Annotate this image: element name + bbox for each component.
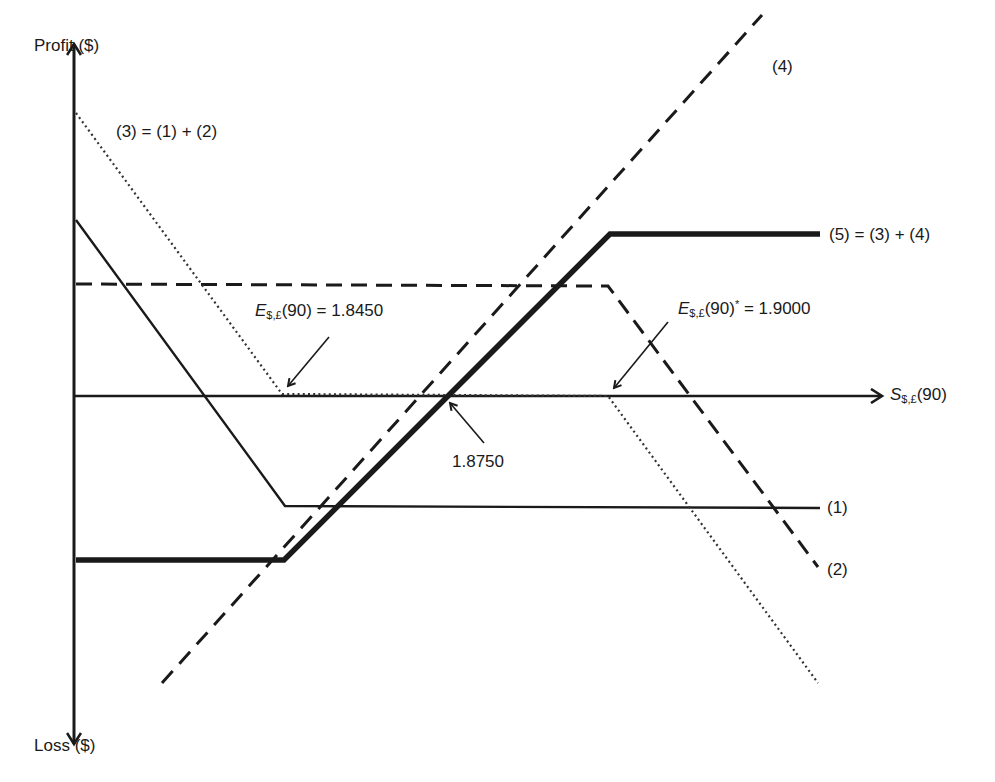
lower-strike-arrow bbox=[288, 337, 329, 386]
x-axis-label-symbol: S bbox=[890, 385, 901, 404]
x-axis-label-rest: (90) bbox=[917, 385, 947, 404]
lower-strike-sub: $,£ bbox=[266, 309, 281, 321]
upper-strike-sub: $,£ bbox=[689, 307, 704, 319]
upper-strike-symbol: E bbox=[678, 299, 689, 318]
series-1-label: (1) bbox=[827, 498, 848, 518]
upper-strike-label: E$,£(90)* = 1.9000 bbox=[678, 298, 811, 319]
x-axis-label: S$,£(90) bbox=[890, 385, 947, 405]
lower-strike-value: (90) = 1.8450 bbox=[282, 301, 384, 320]
y-axis-top-label: Profit ($) bbox=[34, 36, 99, 56]
series-4-label: (4) bbox=[772, 57, 793, 77]
series-5-label: (5) = (3) + (4) bbox=[829, 225, 930, 245]
upper-strike-mid: (90) bbox=[705, 299, 735, 318]
x-axis-label-sub: $,£ bbox=[901, 393, 916, 405]
upper-strike-value: = 1.9000 bbox=[739, 299, 810, 318]
payoff-diagram bbox=[0, 0, 995, 782]
series-4-forward bbox=[162, 15, 762, 683]
breakeven-label: 1.8750 bbox=[452, 452, 504, 472]
lower-strike-label: E$,£(90) = 1.8450 bbox=[255, 301, 383, 321]
y-axis-bottom-label: Loss ($) bbox=[34, 736, 95, 756]
series-2-short-call bbox=[76, 284, 818, 567]
lower-strike-symbol: E bbox=[255, 301, 266, 320]
breakeven-arrow bbox=[450, 403, 484, 443]
series-2-label: (2) bbox=[827, 560, 848, 580]
series-3-label: (3) = (1) + (2) bbox=[116, 122, 217, 142]
